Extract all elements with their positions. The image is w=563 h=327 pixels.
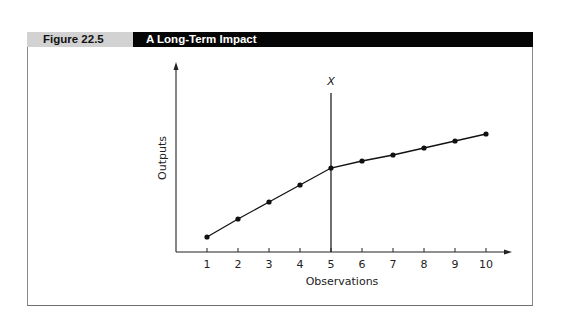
x-tick-label: 3	[266, 258, 273, 271]
x-tick-label: 8	[421, 258, 428, 271]
chart-axes	[174, 62, 513, 255]
data-point	[359, 158, 364, 163]
x-tick-label: 4	[297, 258, 304, 271]
x-tick-label: 2	[235, 258, 242, 271]
x-tick-label: 7	[390, 258, 397, 271]
x-tick-labels: 12345678910	[204, 258, 494, 271]
x-tick-label: 5	[328, 258, 335, 271]
line-chart: 12345678910 X Observations Outputs	[0, 0, 563, 327]
data-point	[452, 138, 457, 143]
y-axis-arrow-icon	[174, 62, 179, 70]
x-tick-label: 10	[479, 258, 493, 271]
x-ticks	[207, 248, 486, 252]
data-point	[235, 216, 240, 221]
data-series	[204, 131, 488, 239]
x-axis-label: Observations	[306, 275, 379, 288]
vertical-marker: X	[326, 75, 335, 252]
x-axis-arrow-icon	[504, 250, 512, 255]
data-point	[328, 165, 333, 170]
x-tick-label: 9	[452, 258, 459, 271]
data-point	[204, 234, 209, 239]
x-tick-label: 6	[359, 258, 366, 271]
y-axis-label: Outputs	[156, 136, 169, 180]
data-point	[390, 152, 395, 157]
x-tick-label: 1	[204, 258, 211, 271]
data-point	[421, 145, 426, 150]
data-point	[297, 182, 302, 187]
data-point	[483, 131, 488, 136]
marker-label: X	[326, 75, 335, 88]
data-point	[266, 199, 271, 204]
series-line	[207, 134, 486, 237]
